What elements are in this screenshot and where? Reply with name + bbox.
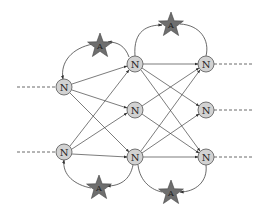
diagram-svg: N N N N N N N N A A A A xyxy=(0,0,266,215)
agent-star-icon: A xyxy=(87,175,112,199)
neuron-h3: N xyxy=(127,149,143,165)
agent-star-icon: A xyxy=(159,180,184,204)
neuron-h2: N xyxy=(127,102,143,118)
svg-text:N: N xyxy=(131,59,140,70)
svg-text:A: A xyxy=(96,42,103,51)
svg-text:N: N xyxy=(60,82,69,93)
svg-text:N: N xyxy=(202,105,211,116)
neuron-nodes: N N N N N N N N xyxy=(56,56,214,165)
svg-text:N: N xyxy=(202,59,211,70)
svg-text:A: A xyxy=(167,21,174,30)
svg-text:N: N xyxy=(60,147,69,158)
svg-text:N: N xyxy=(131,105,140,116)
neuron-o2: N xyxy=(198,102,214,118)
edges-hidden-output xyxy=(141,64,200,157)
neuron-in1: N xyxy=(56,79,72,95)
neuron-h1: N xyxy=(127,56,143,72)
neuron-in2: N xyxy=(56,144,72,160)
svg-text:N: N xyxy=(131,152,140,163)
svg-text:A: A xyxy=(167,189,174,198)
neuron-o1: N xyxy=(198,56,214,72)
svg-text:N: N xyxy=(202,152,211,163)
svg-text:A: A xyxy=(95,184,102,193)
edges-input-hidden xyxy=(70,66,129,157)
network-diagram: N N N N N N N N A A A A xyxy=(0,0,266,215)
agent-star-icon: A xyxy=(88,33,113,57)
agent-star-icon: A xyxy=(159,12,184,36)
neuron-o3: N xyxy=(198,149,214,165)
